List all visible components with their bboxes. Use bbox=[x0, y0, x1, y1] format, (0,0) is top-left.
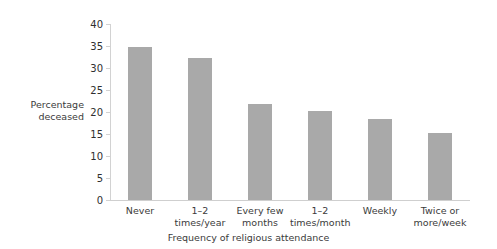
x-axis-category-label: Weekly bbox=[350, 205, 410, 217]
y-axis-tick-mark bbox=[106, 24, 110, 25]
bar bbox=[248, 104, 272, 200]
plot-area: 0510152025303540 bbox=[110, 24, 470, 200]
x-axis-category-label: 1–2 times/year bbox=[170, 205, 230, 228]
y-axis-tick-mark bbox=[106, 178, 110, 179]
y-axis-tick-label: 0 bbox=[97, 194, 103, 207]
bar bbox=[188, 58, 212, 200]
y-axis-tick-label: 35 bbox=[90, 40, 103, 53]
y-axis-tick-mark bbox=[106, 46, 110, 47]
x-axis-category-label: Twice or more/week bbox=[410, 205, 470, 228]
y-axis-tick-mark bbox=[106, 200, 110, 201]
bar bbox=[308, 111, 332, 200]
x-axis-line bbox=[110, 200, 470, 201]
y-axis-tick-mark bbox=[106, 112, 110, 113]
x-axis-category-label: 1–2 times/month bbox=[290, 205, 350, 228]
y-axis-tick-label: 15 bbox=[90, 128, 103, 141]
y-axis-tick-mark bbox=[106, 90, 110, 91]
y-axis-tick-label: 20 bbox=[90, 106, 103, 119]
y-axis-tick-mark bbox=[106, 134, 110, 135]
y-axis-tick-label: 10 bbox=[90, 150, 103, 163]
y-axis-tick-label: 30 bbox=[90, 62, 103, 75]
bar bbox=[428, 133, 452, 200]
y-axis-title: Percentage deceased bbox=[8, 99, 84, 122]
y-axis-tick-mark bbox=[106, 68, 110, 69]
x-axis-title: Frequency of religious attendance bbox=[0, 232, 497, 244]
y-axis-tick-label: 40 bbox=[90, 18, 103, 31]
x-axis-category-label: Every few months bbox=[230, 205, 290, 228]
bar bbox=[368, 119, 392, 200]
bar bbox=[128, 47, 152, 200]
y-axis-tick-label: 5 bbox=[97, 172, 103, 185]
x-axis-category-label: Never bbox=[110, 205, 170, 217]
y-axis-tick-label: 25 bbox=[90, 84, 103, 97]
bar-chart: Percentage deceased 0510152025303540 Fre… bbox=[0, 0, 497, 249]
y-axis-tick-mark bbox=[106, 156, 110, 157]
